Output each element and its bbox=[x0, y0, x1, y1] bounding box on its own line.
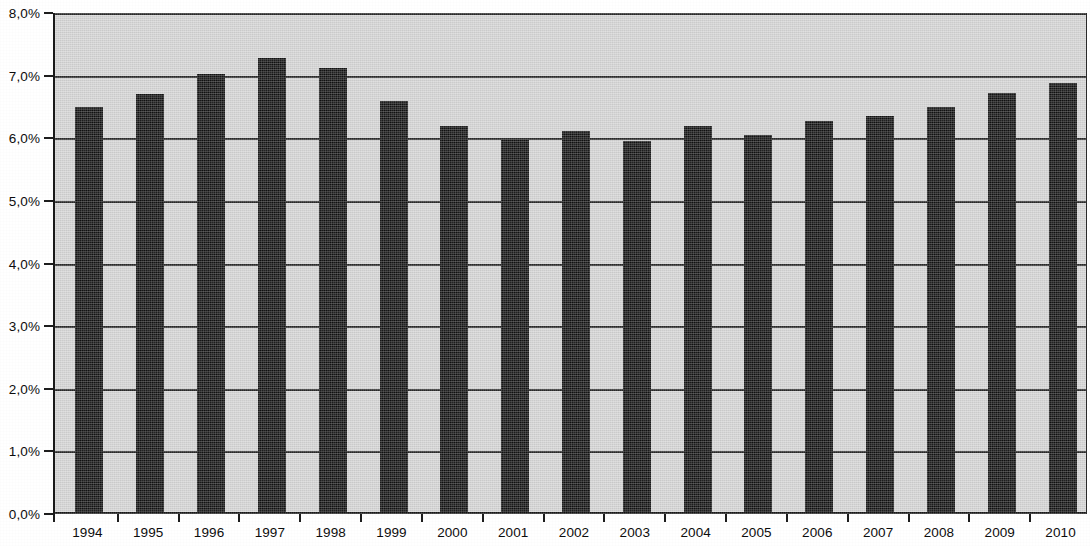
y-tick-label: 2,0% bbox=[9, 381, 40, 396]
y-tick-label: 3,0% bbox=[9, 319, 40, 334]
bar bbox=[75, 107, 103, 514]
y-tick-label: 0,0% bbox=[9, 507, 40, 522]
y-tick-mark bbox=[44, 12, 53, 14]
y-tick-mark bbox=[44, 513, 53, 515]
x-tick-mark bbox=[238, 514, 240, 522]
x-tick-label: 2000 bbox=[437, 525, 467, 540]
gridline-8 bbox=[55, 13, 1086, 15]
x-tick-label: 2003 bbox=[620, 525, 650, 540]
x-tick-label: 2004 bbox=[680, 525, 710, 540]
x-tick-label: 1996 bbox=[194, 525, 224, 540]
x-tick-label: 2010 bbox=[1045, 525, 1075, 540]
x-tick-label: 2006 bbox=[802, 525, 832, 540]
x-tick-label: 2007 bbox=[863, 525, 893, 540]
bar bbox=[136, 94, 164, 514]
y-tick-label: 5,0% bbox=[9, 193, 40, 208]
x-tick-mark bbox=[53, 514, 55, 522]
x-tick-label: 1994 bbox=[72, 525, 102, 540]
x-tick-mark bbox=[360, 514, 362, 522]
x-tick-label: 1999 bbox=[376, 525, 406, 540]
x-tick-mark bbox=[178, 514, 180, 522]
bar bbox=[501, 140, 529, 514]
y-tick-mark bbox=[44, 263, 53, 265]
x-tick-mark bbox=[117, 514, 119, 522]
y-tick-mark bbox=[44, 388, 53, 390]
x-tick-mark bbox=[421, 514, 423, 522]
x-tick-label: 1997 bbox=[255, 525, 285, 540]
y-tick-mark bbox=[44, 200, 53, 202]
bar bbox=[380, 101, 408, 514]
bar bbox=[805, 121, 833, 514]
bar bbox=[440, 126, 468, 514]
x-tick-mark bbox=[299, 514, 301, 522]
bar bbox=[319, 68, 347, 514]
x-tick-mark bbox=[786, 514, 788, 522]
y-tick-mark bbox=[44, 137, 53, 139]
bar bbox=[197, 74, 225, 514]
y-tick-label: 8,0% bbox=[9, 6, 40, 21]
plot-area bbox=[53, 13, 1087, 514]
bar bbox=[744, 135, 772, 514]
x-tick-label: 1998 bbox=[315, 525, 345, 540]
x-tick-mark bbox=[908, 514, 910, 522]
x-tick-label: 2002 bbox=[559, 525, 589, 540]
x-tick-mark bbox=[847, 514, 849, 522]
bar bbox=[684, 126, 712, 514]
x-tick-mark bbox=[725, 514, 727, 522]
bar bbox=[258, 58, 286, 514]
x-tick-label: 2001 bbox=[498, 525, 528, 540]
x-tick-mark bbox=[543, 514, 545, 522]
y-axis: 0,0%1,0%2,0%3,0%4,0%5,0%6,0%7,0%8,0% bbox=[0, 0, 53, 546]
y-tick-label: 6,0% bbox=[9, 131, 40, 146]
y-tick-mark bbox=[44, 325, 53, 327]
bar bbox=[927, 107, 955, 514]
bar bbox=[988, 93, 1016, 514]
y-tick-mark bbox=[44, 75, 53, 77]
x-tick-mark bbox=[603, 514, 605, 522]
bar bbox=[623, 141, 651, 514]
x-tick-mark bbox=[968, 514, 970, 522]
x-tick-mark bbox=[664, 514, 666, 522]
bar-chart: 0,0%1,0%2,0%3,0%4,0%5,0%6,0%7,0%8,0% 199… bbox=[0, 0, 1090, 546]
x-tick-mark bbox=[482, 514, 484, 522]
y-tick-label: 1,0% bbox=[9, 444, 40, 459]
y-tick-label: 4,0% bbox=[9, 256, 40, 271]
y-tick-label: 7,0% bbox=[9, 68, 40, 83]
bar bbox=[1049, 83, 1077, 514]
x-tick-label: 1995 bbox=[133, 525, 163, 540]
x-tick-label: 2009 bbox=[985, 525, 1015, 540]
x-tick-label: 2008 bbox=[924, 525, 954, 540]
x-tick-label: 2005 bbox=[741, 525, 771, 540]
bar bbox=[866, 116, 894, 514]
y-tick-mark bbox=[44, 450, 53, 452]
x-axis: 1994199519961997199819992000200120022003… bbox=[53, 514, 1087, 546]
bar bbox=[562, 131, 590, 514]
x-tick-mark bbox=[1029, 514, 1031, 522]
